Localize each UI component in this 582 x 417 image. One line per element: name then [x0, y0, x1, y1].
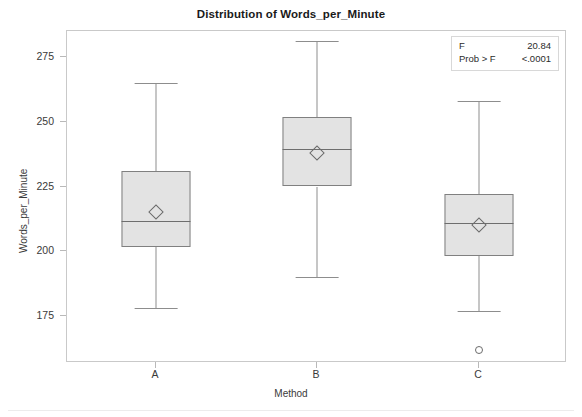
f-label: F: [459, 40, 465, 53]
f-value: 20.84: [527, 40, 551, 53]
median-line: [122, 221, 191, 222]
whisker-cap-lower: [135, 308, 178, 309]
y-axis-label: Words_per_Minute: [18, 169, 29, 253]
x-tick-mark: [155, 362, 156, 368]
whisker-lower: [479, 256, 480, 310]
whisker-upper: [317, 41, 318, 116]
outlier-point[interactable]: [475, 346, 483, 354]
x-axis-label: Method: [0, 388, 582, 399]
y-tick-label: 250: [14, 115, 54, 127]
y-tick-label: 275: [14, 50, 54, 62]
y-tick-mark: [60, 186, 66, 187]
chart-title: Distribution of Words_per_Minute: [0, 8, 582, 20]
whisker-cap-lower: [296, 277, 339, 278]
plot-area: F 20.84 Prob > F <.0001: [66, 30, 566, 362]
whisker-cap-upper: [296, 41, 339, 42]
x-tick-label-b: B: [312, 368, 319, 380]
whisker-lower: [317, 187, 318, 278]
stats-row-f: F 20.84: [459, 40, 551, 53]
x-tick-mark: [316, 362, 317, 368]
whisker-cap-upper: [458, 101, 501, 102]
prob-value: <.0001: [522, 53, 551, 66]
x-tick-label-a: A: [151, 368, 158, 380]
whisker-cap-upper: [135, 83, 178, 84]
stats-row-prob: Prob > F <.0001: [459, 53, 551, 66]
y-tick-mark: [60, 315, 66, 316]
prob-label: Prob > F: [459, 53, 496, 66]
anova-stats-box: F 20.84 Prob > F <.0001: [451, 36, 559, 71]
whisker-cap-lower: [458, 311, 501, 312]
y-tick-mark: [60, 250, 66, 251]
boxplot-chart: Distribution of Words_per_Minute F 20.84…: [0, 0, 582, 417]
bottom-divider: [8, 410, 574, 411]
y-tick-mark: [60, 121, 66, 122]
whisker-lower: [156, 247, 157, 308]
whisker-upper: [156, 83, 157, 171]
y-tick-mark: [60, 56, 66, 57]
x-tick-mark: [478, 362, 479, 368]
y-tick-label: 175: [14, 309, 54, 321]
x-tick-label-c: C: [474, 368, 482, 380]
whisker-upper: [479, 101, 480, 194]
